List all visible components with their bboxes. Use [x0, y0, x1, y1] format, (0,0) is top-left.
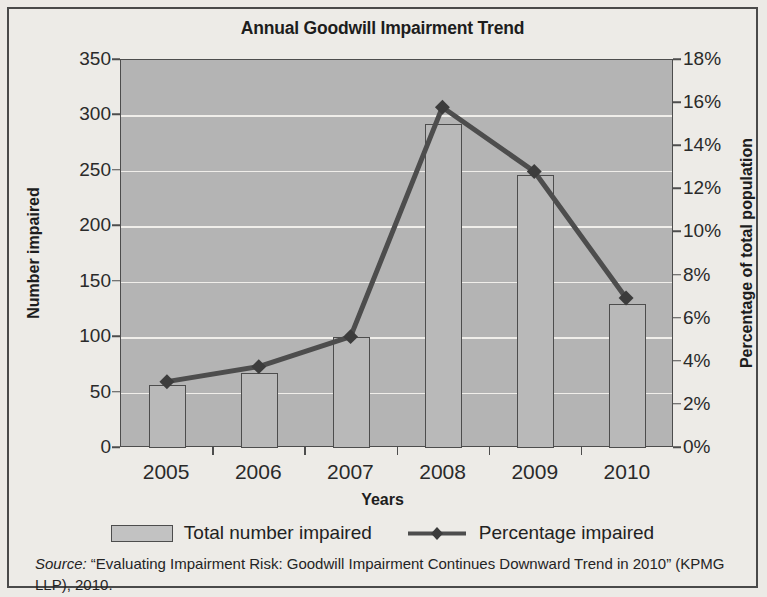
- x-axis-tick-label-2005: 2005: [143, 460, 190, 484]
- legend-bar-swatch: [111, 525, 173, 542]
- y-axis-right-tick-mark: [673, 446, 681, 448]
- y-axis-right-tick-mark: [673, 317, 681, 319]
- percentage-line: [167, 107, 626, 381]
- y-axis-left-tick-label: 300: [79, 103, 111, 125]
- y-axis-right-tick-mark: [673, 188, 681, 190]
- source-note: Source: “Evaluating Impairment Risk: Goo…: [35, 554, 741, 595]
- y-axis-left-label: Number impaired: [25, 187, 43, 319]
- y-axis-right-tick-label: 0%: [683, 436, 710, 458]
- y-axis-right-tick-label: 10%: [683, 220, 721, 242]
- x-axis-tick-label-2008: 2008: [419, 460, 466, 484]
- legend-line-marker-icon: [406, 525, 468, 542]
- y-axis-right-tick-label: 12%: [683, 177, 721, 199]
- y-axis-right-tick-label: 8%: [683, 264, 710, 286]
- x-axis-tick-mark: [397, 447, 399, 455]
- chart-title: Annual Goodwill Impairment Trend: [9, 18, 756, 39]
- legend-item-bars: Total number impaired: [111, 522, 372, 544]
- figure-frame: Annual Goodwill Impairment Trend Number …: [7, 7, 758, 588]
- line-marker-2005: [159, 374, 174, 389]
- y-axis-left-tick-mark: [112, 446, 120, 448]
- y-axis-left-tick-mark: [112, 169, 120, 171]
- x-axis-tick-mark: [489, 447, 491, 455]
- y-axis-right-tick-mark: [673, 274, 681, 276]
- y-axis-right-tick-mark: [673, 101, 681, 103]
- y-axis-left-tick-label: 350: [79, 48, 111, 70]
- y-axis-left-tick-mark: [112, 225, 120, 227]
- chart-legend: Total number impaired Percentage impaire…: [9, 522, 756, 544]
- y-axis-left-tick-mark: [112, 114, 120, 116]
- x-axis-tick-label-2006: 2006: [235, 460, 282, 484]
- x-axis-tick-label-2009: 2009: [511, 460, 558, 484]
- y-axis-left-tick-label: 0: [100, 436, 111, 458]
- y-axis-left-tick-label: 250: [79, 159, 111, 181]
- y-axis-right-tick-label: 14%: [683, 134, 721, 156]
- y-axis-left-tick-mark: [112, 335, 120, 337]
- x-axis-tick-mark: [304, 447, 306, 455]
- legend-label-bars: Total number impaired: [184, 522, 372, 544]
- plot-area: [120, 59, 673, 447]
- x-axis-tick-label-2010: 2010: [604, 460, 651, 484]
- y-axis-left-tick-label: 100: [79, 325, 111, 347]
- y-axis-left-tick-mark: [112, 280, 120, 282]
- legend-item-line: Percentage impaired: [406, 522, 654, 544]
- line-marker-2007: [343, 329, 358, 344]
- x-axis-tick-mark: [581, 447, 583, 455]
- line-series: [121, 60, 672, 446]
- legend-label-line: Percentage impaired: [479, 522, 654, 544]
- y-axis-right-tick-mark: [673, 403, 681, 405]
- x-axis-label: Years: [9, 491, 756, 509]
- y-axis-right-tick-mark: [673, 58, 681, 60]
- source-label: Source:: [35, 555, 87, 572]
- y-axis-right-label: Percentage of total population: [738, 138, 756, 368]
- y-axis-right-tick-mark: [673, 144, 681, 146]
- y-axis-right-tick-label: 4%: [683, 350, 710, 372]
- x-axis-tick-label-2007: 2007: [327, 460, 374, 484]
- y-axis-left-tick-label: 150: [79, 270, 111, 292]
- plot-wrapper: 050100150200250300350 0%2%4%6%8%10%12%14…: [120, 59, 673, 447]
- line-marker-2006: [251, 359, 266, 374]
- y-axis-right-tick-label: 18%: [683, 48, 721, 70]
- y-axis-right-tick-label: 6%: [683, 307, 710, 329]
- y-axis-right-tick-mark: [673, 231, 681, 233]
- y-axis-left-tick-label: 200: [79, 214, 111, 236]
- y-axis-left-tick-label: 50: [90, 381, 111, 403]
- y-axis-right-tick-mark: [673, 360, 681, 362]
- x-axis-tick-mark: [212, 447, 214, 455]
- source-text: “Evaluating Impairment Risk: Goodwill Im…: [35, 555, 724, 593]
- y-axis-right-tick-label: 2%: [683, 393, 710, 415]
- y-axis-left-tick-mark: [112, 58, 120, 60]
- y-axis-left-tick-mark: [112, 391, 120, 393]
- y-axis-right-tick-label: 16%: [683, 91, 721, 113]
